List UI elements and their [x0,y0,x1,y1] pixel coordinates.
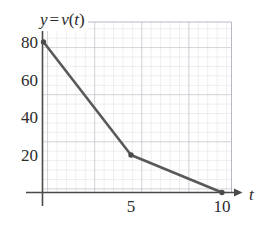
data-point-t5 [128,152,133,157]
curve-label-equals: = [48,10,62,29]
y-tick-label-80: 80 [6,34,38,51]
x-tick-label-5: 5 [127,198,136,215]
grid-group [43,22,232,193]
curve-label-close-paren: ) [79,10,85,29]
y-tick-label-20: 20 [6,147,38,164]
y-tick-label-60: 60 [6,71,38,88]
x-axis-arrowhead [234,189,243,197]
curve-label: y=v(t) [38,10,88,31]
velocity-line-chart [0,0,266,226]
y-tick-label-40: 40 [6,109,38,126]
data-point-t10 [219,190,224,195]
curve-label-y: y [40,10,48,29]
grid-major [43,22,232,193]
curve-label-v: v [61,10,69,29]
chart-figure: y=v(t) 80 60 40 20 5 10 t [0,0,266,226]
x-tick-label-10: 10 [214,198,231,215]
x-axis-label: t [249,186,254,203]
data-point-t0 [41,39,46,44]
